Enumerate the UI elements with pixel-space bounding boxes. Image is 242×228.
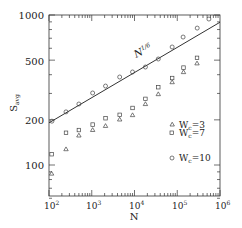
circle-point: [181, 35, 185, 39]
circle-point: [104, 84, 108, 88]
square-point: [195, 56, 199, 60]
square-point: [104, 116, 108, 120]
circle-point: [118, 75, 122, 79]
circle-point: [195, 26, 199, 30]
triangle-point: [143, 102, 147, 106]
square-point: [157, 85, 161, 89]
y-tick-1000: 1000: [19, 10, 44, 21]
y-tick-500: 500: [25, 56, 44, 67]
triangle-marker-icon: [170, 122, 174, 126]
square-point: [118, 113, 122, 117]
chart-svg: 1000 500 200 100 Savg 102 103 104 105 10…: [0, 0, 242, 228]
triangle-point: [64, 147, 68, 151]
square-point: [144, 97, 148, 101]
square-point: [131, 106, 135, 110]
svg-text:102: 102: [44, 199, 59, 211]
svg-text:105: 105: [172, 199, 187, 211]
square-point: [77, 128, 81, 132]
circle-point: [207, 17, 211, 21]
y-axis-label: Savg: [8, 94, 21, 112]
square-point: [50, 152, 54, 156]
triangle-point: [130, 113, 134, 117]
triangle-point: [77, 133, 81, 137]
triangle-point: [156, 92, 160, 96]
y-tick-100: 100: [25, 160, 44, 171]
square-marker-icon: [170, 131, 174, 135]
circle-point: [170, 45, 174, 49]
x-axis-label: N: [130, 211, 139, 222]
legend-item-wc7: Wc=7: [170, 128, 205, 139]
scatter-chart: 1000 500 200 100 Savg 102 103 104 105 10…: [0, 0, 242, 228]
triangle-point: [195, 61, 199, 65]
svg-text:104: 104: [129, 199, 144, 211]
plot-frame: [49, 15, 220, 196]
x-tick-labels: 102 103 104 105 106: [44, 199, 230, 211]
circle-point: [91, 91, 95, 95]
triangle-point: [181, 70, 185, 74]
svg-text:N1/6: N1/6: [131, 41, 154, 60]
y-tick-200: 200: [25, 115, 44, 126]
triangle-point: [103, 124, 107, 128]
legend-item-wc10: Wc=10: [170, 153, 211, 164]
legend: Wc=3 Wc=7 Wc=10: [170, 120, 211, 164]
svg-text:Savg: Savg: [8, 94, 21, 112]
triangle-point: [170, 80, 174, 84]
square-point: [182, 66, 186, 70]
svg-text:106: 106: [215, 199, 230, 211]
svg-text:Wc=10: Wc=10: [179, 153, 211, 164]
data-points: [49, 17, 211, 175]
square-point: [91, 123, 95, 127]
fit-annotation: N1/6: [131, 41, 154, 60]
triangle-point: [117, 117, 121, 121]
circle-marker-icon: [170, 156, 174, 160]
square-point: [64, 131, 68, 135]
svg-text:103: 103: [86, 199, 101, 211]
svg-text:Wc=7: Wc=7: [179, 128, 205, 139]
triangle-point: [90, 128, 94, 132]
